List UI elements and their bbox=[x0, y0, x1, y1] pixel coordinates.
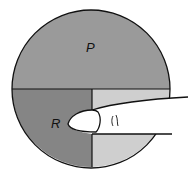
label-r: R bbox=[51, 116, 60, 131]
circle-finger-diagram: P R bbox=[0, 0, 188, 174]
label-p: P bbox=[86, 40, 95, 55]
